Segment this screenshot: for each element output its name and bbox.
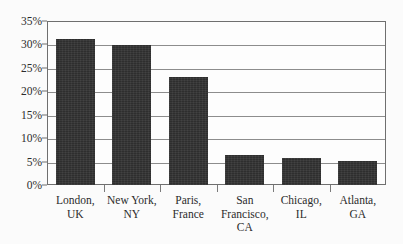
x-axis-tick: [273, 185, 274, 192]
x-tick-label-line: London,: [47, 194, 104, 208]
x-tick-label-line: New York,: [104, 194, 161, 208]
y-tick-mark-15%: [42, 114, 47, 115]
y-tick-mark-35%: [42, 21, 47, 22]
y-tick-mark-5%: [42, 161, 47, 162]
y-tick-mark-10%: [42, 138, 47, 139]
y-tick-label-20%: 20%: [0, 85, 42, 97]
x-tick-label-line: Francisco,: [217, 208, 274, 222]
bar: [112, 45, 151, 185]
y-tick-label-35%: 35%: [0, 15, 42, 27]
y-tick-label-5%: 5%: [0, 156, 42, 168]
x-axis-tick: [160, 185, 161, 192]
bar: [282, 158, 321, 185]
x-tick-label-line: NY: [104, 208, 161, 222]
bar: [169, 77, 208, 185]
x-tick-label-line: CA: [217, 221, 274, 235]
x-tick-label-line: Chicago,: [273, 194, 330, 208]
y-tick-mark-25%: [42, 67, 47, 68]
y-tick-label-0%: 0%: [0, 179, 42, 191]
x-axis-labels: London,UKNew York,NYParis,FranceSanFranc…: [47, 194, 386, 244]
x-axis-ticks: [47, 185, 386, 192]
y-tick-label-30%: 30%: [0, 38, 42, 50]
bar: [225, 155, 264, 185]
y-axis: 0%5%10%15%20%25%30%35%: [0, 21, 42, 185]
x-tick-label-line: Paris,: [160, 194, 217, 208]
bar-chart: 0%5%10%15%20%25%30%35% London,UKNew York…: [0, 0, 403, 244]
x-tick-label-line: UK: [47, 208, 104, 222]
x-axis-tick: [217, 185, 218, 192]
y-tick-mark-0%: [42, 185, 47, 186]
y-tick-label-25%: 25%: [0, 62, 42, 74]
x-tick-label: Atlanta,GA: [330, 194, 387, 221]
x-tick-label-line: Atlanta,: [330, 194, 387, 208]
bar: [338, 161, 377, 185]
x-axis-tick: [104, 185, 105, 192]
x-tick-label: SanFrancisco,CA: [217, 194, 274, 235]
y-tick-label-15%: 15%: [0, 109, 42, 121]
bar: [56, 39, 95, 185]
x-axis-tick: [330, 185, 331, 192]
y-tick-mark-30%: [42, 44, 47, 45]
y-tick-mark-20%: [42, 91, 47, 92]
x-tick-label-line: GA: [330, 208, 387, 222]
x-tick-label: London,UK: [47, 194, 104, 221]
y-tick-label-10%: 10%: [0, 132, 42, 144]
x-tick-label: New York,NY: [104, 194, 161, 221]
x-tick-label-line: IL: [273, 208, 330, 222]
bars-layer: [47, 21, 386, 185]
x-tick-label: Paris,France: [160, 194, 217, 221]
x-tick-label-line: France: [160, 208, 217, 222]
x-tick-label-line: San: [217, 194, 274, 208]
x-tick-label: Chicago,IL: [273, 194, 330, 221]
